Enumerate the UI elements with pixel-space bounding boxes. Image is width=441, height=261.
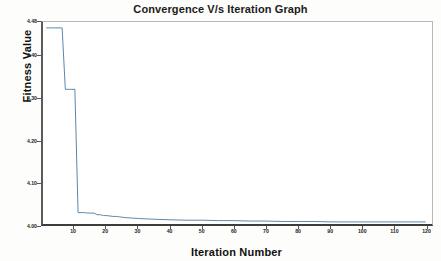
y-tick-mark: [37, 183, 41, 184]
x-tick-mark: [234, 226, 235, 229]
x-tick-mark: [202, 226, 203, 229]
y-tick-mark: [37, 21, 41, 22]
x-tick-mark: [105, 226, 106, 229]
y-tick-label: 4.30: [12, 95, 37, 101]
y-tick-mark: [37, 98, 41, 99]
x-tick-mark: [394, 226, 395, 229]
x-tick-mark: [298, 226, 299, 229]
y-tick-label: 4.48: [12, 18, 37, 24]
y-tick-mark: [37, 226, 41, 227]
chart-figure: Convergence V/s Iteration Graph Fitness …: [0, 0, 441, 261]
x-tick-mark: [137, 226, 138, 229]
x-tick-mark: [73, 226, 74, 229]
x-tick-mark: [427, 226, 428, 229]
x-axis-title: Iteration Number: [40, 246, 433, 258]
y-axis-ticks: 4.004.104.204.304.404.48: [0, 0, 441, 261]
y-tick-label: 4.20: [12, 138, 37, 144]
x-tick-mark: [170, 226, 171, 229]
y-tick-label: 4.00: [12, 223, 37, 229]
y-tick-mark: [37, 55, 41, 56]
x-tick-mark: [362, 226, 363, 229]
y-tick-mark: [37, 141, 41, 142]
y-tick-label: 4.40: [12, 52, 37, 58]
x-tick-mark: [330, 226, 331, 229]
y-tick-label: 4.10: [12, 180, 37, 186]
x-tick-mark: [266, 226, 267, 229]
